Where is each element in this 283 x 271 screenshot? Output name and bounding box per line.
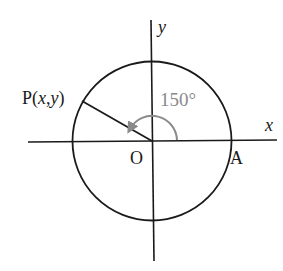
origin-label: O xyxy=(130,148,143,168)
radius-op xyxy=(82,101,152,141)
y-axis-label: y xyxy=(156,17,166,37)
point-a-label: A xyxy=(230,148,243,168)
angle-label: 150° xyxy=(160,89,196,110)
point-p-label: P(x,y) xyxy=(22,88,65,109)
x-axis-label: x xyxy=(264,115,273,135)
unit-circle-diagram: y x O A 150° P(x,y) xyxy=(0,0,283,271)
angle-arc xyxy=(130,116,177,140)
